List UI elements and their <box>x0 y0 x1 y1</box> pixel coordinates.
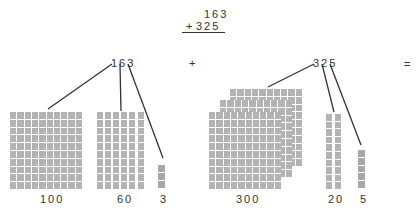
block-cell <box>39 182 45 189</box>
block-cell <box>275 143 281 150</box>
block-cell <box>335 167 341 174</box>
right-ones-label: 5 <box>360 193 368 205</box>
block-cell <box>39 128 45 135</box>
block-cell <box>216 182 222 189</box>
block-cell <box>224 159 230 166</box>
block-cell <box>286 170 292 177</box>
block-cell <box>10 120 16 127</box>
block-cell <box>209 182 215 189</box>
block-cell <box>253 159 259 166</box>
block-cell <box>129 151 135 158</box>
block-cell <box>267 112 273 119</box>
block-cell <box>267 167 273 174</box>
block-cell <box>158 181 165 188</box>
block-cell <box>271 100 277 107</box>
block-cell <box>238 167 244 174</box>
block-cell <box>32 143 38 150</box>
block-cell <box>296 112 302 119</box>
block-cell <box>138 182 144 189</box>
block-cell <box>25 112 31 119</box>
block-cell <box>10 174 16 181</box>
block-cell <box>25 159 31 166</box>
block-cell <box>231 174 237 181</box>
block-cell <box>158 173 165 180</box>
block-cell <box>121 128 127 135</box>
block-cell <box>129 182 135 189</box>
block-cell <box>113 143 119 150</box>
block-cell <box>335 137 341 144</box>
block-cell <box>246 112 252 119</box>
block-cell <box>113 120 119 127</box>
block-cell <box>17 135 23 142</box>
block-cell <box>68 143 74 150</box>
block-cell <box>224 135 230 142</box>
block-cell <box>10 182 16 189</box>
block-cell <box>326 175 332 182</box>
block-cell <box>17 151 23 158</box>
block-cell <box>326 144 332 151</box>
block-cell <box>47 167 53 174</box>
block-cell <box>76 112 82 119</box>
block-cell <box>296 128 302 135</box>
block-cell <box>326 160 332 167</box>
block-cell <box>224 128 230 135</box>
block-cell <box>267 151 273 158</box>
block-cell <box>252 89 258 96</box>
block-cell <box>288 89 294 96</box>
block-cell <box>61 159 67 166</box>
block-cell <box>246 120 252 127</box>
right-ones-cubes <box>358 150 365 188</box>
block-cell <box>113 174 119 181</box>
block-cell <box>61 167 67 174</box>
block-cell <box>17 167 23 174</box>
block-cell <box>121 182 127 189</box>
block-cell <box>138 151 144 158</box>
block-cell <box>253 167 259 174</box>
block-cell <box>32 120 38 127</box>
block-cell <box>238 143 244 150</box>
block-cell <box>17 128 23 135</box>
block-cell <box>286 108 292 115</box>
block-cell <box>32 159 38 166</box>
block-cell <box>138 128 144 135</box>
block-cell <box>216 135 222 142</box>
block-cell <box>296 136 302 143</box>
block-cell <box>246 159 252 166</box>
block-cell <box>235 100 241 107</box>
right-number: 325 <box>313 57 337 69</box>
block-cell <box>275 159 281 166</box>
ten-rod <box>121 112 127 189</box>
block-cell <box>275 167 281 174</box>
block-cell <box>326 114 332 121</box>
block-cell <box>97 167 103 174</box>
block-cell <box>121 143 127 150</box>
left-hundreds-label: 100 <box>40 193 64 205</box>
block-cell <box>54 128 60 135</box>
block-cell <box>267 174 273 181</box>
block-cell <box>54 159 60 166</box>
block-cell <box>238 151 244 158</box>
block-cell <box>97 135 103 142</box>
block-cell <box>61 135 67 142</box>
left-tens-label: 60 <box>117 193 133 205</box>
block-cell <box>286 139 292 146</box>
block-cell <box>209 128 215 135</box>
block-cell <box>138 135 144 142</box>
block-cell <box>253 182 259 189</box>
block-cell <box>246 128 252 135</box>
block-cell <box>238 120 244 127</box>
block-cell <box>274 89 280 96</box>
block-cell <box>113 112 119 119</box>
block-cell <box>326 152 332 159</box>
block-cell <box>39 174 45 181</box>
ten-rod <box>138 112 144 189</box>
block-cell <box>253 151 259 158</box>
left-ones-label: 3 <box>160 193 168 205</box>
block-cell <box>129 128 135 135</box>
block-cell <box>129 120 135 127</box>
block-cell <box>105 112 111 119</box>
block-cell <box>113 135 119 142</box>
block-cell <box>231 182 237 189</box>
block-cell <box>224 151 230 158</box>
block-cell <box>129 143 135 150</box>
